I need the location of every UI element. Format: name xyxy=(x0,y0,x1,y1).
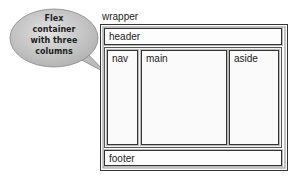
aside-column: aside xyxy=(229,50,279,145)
aside-label: aside xyxy=(234,53,258,64)
callout-line: Flex xyxy=(14,13,94,24)
header-box: header xyxy=(104,28,282,45)
callout-line: container xyxy=(14,24,94,35)
callout-text: Flex container with three columns xyxy=(14,13,94,57)
header-label: header xyxy=(109,31,140,42)
callout-line: with three xyxy=(14,35,94,46)
footer-label: footer xyxy=(109,153,135,164)
nav-column: nav xyxy=(107,50,138,145)
nav-label: nav xyxy=(112,53,128,64)
footer-box: footer xyxy=(104,150,282,166)
callout-line: columns xyxy=(14,46,94,57)
main-label: main xyxy=(146,53,168,64)
wrapper-label: wrapper xyxy=(102,11,138,22)
main-column: main xyxy=(141,50,227,145)
